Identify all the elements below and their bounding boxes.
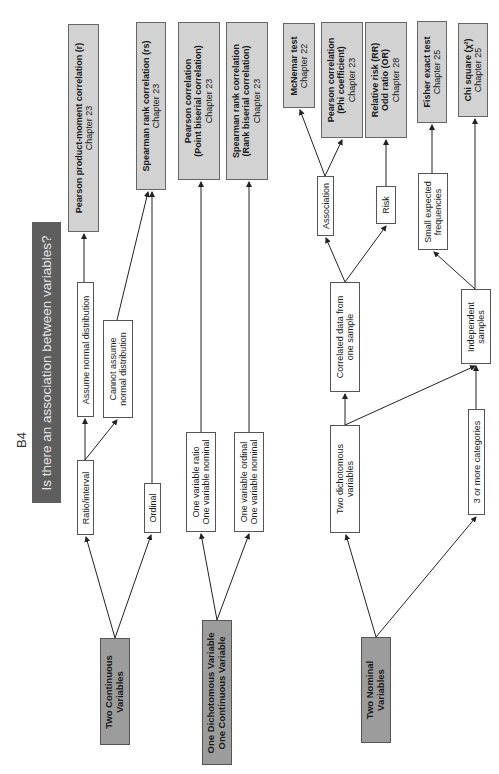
node-ratio-interval[interactable]: Ratio/interval [77, 460, 94, 535]
outcome-pearson-phi[interactable]: Pearson correlation(Phi coefficient)Chap… [321, 22, 363, 138]
node-cannot-assume-normal[interactable]: Cannot assumenormal distribution [103, 320, 133, 418]
outcome-spearman-rank-biserial[interactable]: Spearman rank correlation(Rank biserial … [226, 22, 268, 180]
source-two-nominal[interactable]: Two NominalVariables [361, 637, 391, 743]
outcome-chi-square[interactable]: Chi square (χ²)Chapter 25 [458, 23, 488, 117]
flowchart-canvas: B4 Is there an association between varia… [0, 0, 499, 774]
node-association[interactable]: Association [317, 176, 334, 236]
figure-label: B4 [12, 430, 32, 450]
node-ordinal-nominal[interactable]: One variable ordinalOne variable nominal [234, 432, 264, 532]
node-risk[interactable]: Risk [376, 186, 396, 224]
node-ratio-nominal[interactable]: One variable ratioOne variable nominal [186, 432, 216, 532]
outcome-spearman-rs[interactable]: Spearman rank correlation (rs)Chapter 23 [136, 22, 166, 190]
node-correlated-one-sample[interactable]: Correlated data fromone sample [330, 282, 360, 392]
outcome-relative-risk-odds-ratio[interactable]: Relative risk (RR)Odd ratio (OR)Chapter … [365, 22, 407, 138]
title-text: Is there an association between variable… [39, 235, 55, 490]
node-assume-normal[interactable]: Assume normal distribution [77, 282, 94, 417]
outcome-fisher-exact[interactable]: Fisher exact testChapter 25 [417, 21, 447, 123]
figure-label-text: B4 [15, 432, 30, 448]
node-small-expected-frequencies[interactable]: Small expectedfrequencies [418, 173, 448, 250]
node-ordinal[interactable]: Ordinal [144, 483, 161, 533]
outcome-pearson-r[interactable]: Pearson product-moment correlation (r)Ch… [68, 24, 99, 232]
source-one-dichotomous-one-continuous[interactable]: One Dichotomous VariableOne Continuous V… [202, 620, 232, 765]
node-three-or-more-categories[interactable]: 3 or more categories [468, 409, 485, 515]
source-two-continuous[interactable]: Two ContinuousVariables [100, 638, 130, 745]
node-two-dichotomous[interactable]: Two dichotomousvariables [330, 425, 360, 533]
outcome-mcnemar[interactable]: McNemar testChapter 22 [283, 23, 315, 108]
title-bar: Is there an association between variable… [32, 222, 61, 503]
node-independent-samples[interactable]: Independentsamples [461, 289, 491, 364]
outcome-pearson-point-biserial[interactable]: Pearson correlation(Point biserial corre… [178, 22, 220, 180]
